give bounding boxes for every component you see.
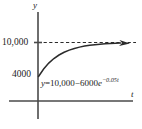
- y-tick-label-4000: 4000: [12, 70, 31, 80]
- exponential-curve: [39, 43, 121, 76]
- equation-constant: 10,000: [50, 78, 75, 88]
- y-tick-label-10000: 10,000: [2, 38, 28, 48]
- equation-exponent: −0.05t: [102, 76, 119, 83]
- y-axis-label: y: [33, 1, 37, 10]
- chart-canvas: [0, 0, 142, 129]
- t-axis-label: t: [131, 90, 134, 99]
- equation-annotation: y=10,000−6000e−0.05t: [41, 79, 119, 88]
- equation-coefficient: 6000: [80, 78, 98, 88]
- exponential-growth-chart: y t 10,000 4000 y=10,000−6000e−0.05t: [0, 0, 142, 129]
